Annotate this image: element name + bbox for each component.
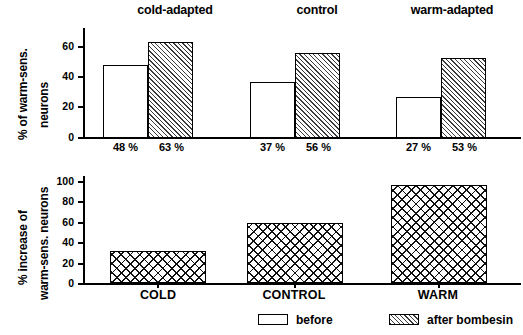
top-panel-yticklabel-60: 60 <box>48 40 74 52</box>
bottom-panel-ytick-20 <box>78 263 83 265</box>
bottom-panel-ytick-80 <box>78 201 83 203</box>
top-value-label-warm-after: 53 % <box>440 141 489 153</box>
top-panel-ytick-60 <box>78 46 83 48</box>
bottom-panel-ytick-60 <box>78 222 83 224</box>
bottom-category-label-warm: WARM <box>388 288 488 302</box>
top-value-label-control-after: 56 % <box>294 141 343 153</box>
bottom-bar-cold <box>110 251 206 283</box>
bottom-panel-yticklabel-60: 60 <box>44 216 74 228</box>
legend-swatch-after-bombesin-icon <box>389 314 419 325</box>
top-bar-cold-after <box>148 42 193 138</box>
legend-swatch-before-icon <box>258 314 288 325</box>
bottom-panel: % increase of warm-sens. neurons 0 20 40… <box>0 160 523 310</box>
top-bar-control-after <box>295 53 340 138</box>
top-panel-yticklabel-40: 40 <box>48 70 74 82</box>
legend-label-before: before <box>296 313 333 327</box>
bottom-panel-ytick-40 <box>78 242 83 244</box>
top-bar-cold-before <box>103 65 148 138</box>
bottom-panel-yticklabel-0: 0 <box>44 277 74 289</box>
bottom-panel-yticklabel-40: 40 <box>44 236 74 248</box>
top-panel-y-axis <box>83 28 85 139</box>
top-bar-warm-before <box>396 97 441 138</box>
top-panel-ytick-20 <box>78 106 83 108</box>
bottom-panel-y-axis <box>83 176 85 285</box>
top-bar-control-before <box>250 82 295 138</box>
bottom-panel-ytick-0 <box>78 283 83 285</box>
top-value-label-cold-before: 48 % <box>101 141 150 153</box>
bottom-bar-control <box>247 223 343 283</box>
figure-container: cold-adapted control warm-adapted % of w… <box>0 0 523 335</box>
bottom-bar-warm <box>391 185 487 283</box>
bottom-category-label-control: CONTROL <box>244 288 344 302</box>
top-panel-ytick-40 <box>78 76 83 78</box>
top-panel-ylabel-line1: % of warm-sens. <box>16 48 30 140</box>
group-header-control: control <box>252 3 382 17</box>
top-panel: % of warm-sens. neurons 0 20 40 60 48 % … <box>0 20 523 160</box>
top-value-label-control-before: 37 % <box>248 141 297 153</box>
top-bar-warm-after <box>441 58 486 138</box>
top-panel-yticklabel-0: 0 <box>48 131 74 143</box>
bottom-panel-ytick-100 <box>78 181 83 183</box>
bottom-category-label-cold: COLD <box>108 288 208 302</box>
bottom-panel-yticklabel-80: 80 <box>44 195 74 207</box>
legend-label-after-bombesin: after bombesin <box>427 313 513 327</box>
bottom-panel-yticklabel-100: 100 <box>44 175 74 187</box>
group-header-cold-adapted: cold-adapted <box>100 3 250 17</box>
legend: before after bombesin <box>0 312 523 332</box>
bottom-panel-yticklabel-20: 20 <box>44 257 74 269</box>
bottom-panel-x-axis <box>83 283 521 285</box>
top-value-label-cold-after: 63 % <box>147 141 196 153</box>
top-panel-yticklabel-20: 20 <box>48 100 74 112</box>
group-header-warm-adapted: warm-adapted <box>382 3 522 17</box>
top-panel-ytick-0 <box>78 137 83 139</box>
bottom-panel-ylabel-line1: % increase of <box>16 210 30 285</box>
top-value-label-warm-before: 27 % <box>394 141 443 153</box>
